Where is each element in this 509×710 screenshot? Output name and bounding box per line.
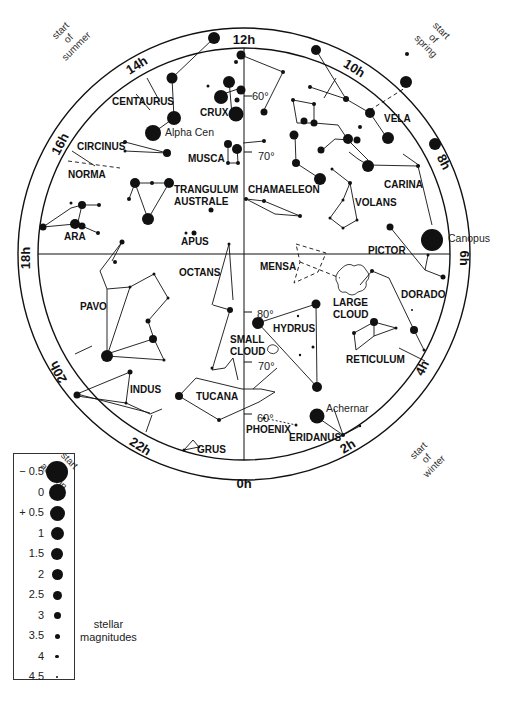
- star-alpha-cen: [145, 125, 161, 141]
- legend-magnitude-label: 3: [38, 609, 44, 621]
- constellation-label: AUSTRALE: [174, 196, 229, 207]
- legend-row: 0: [14, 483, 74, 503]
- star-name-label: Achernar: [326, 402, 369, 414]
- legend-star-dot-icon: [50, 506, 65, 521]
- declination-label: 70°: [258, 360, 275, 372]
- declination-label: 60°: [257, 412, 274, 424]
- constellation-label: LARGE: [333, 297, 368, 308]
- constellation-label: NORMA: [68, 169, 106, 180]
- constellation-label: PAVO: [80, 301, 107, 312]
- legend-row: 3: [14, 606, 74, 626]
- constellation-label: OCTANS: [179, 267, 221, 278]
- star-canopus: [421, 229, 443, 251]
- legend-magnitude-label: 4: [38, 650, 44, 662]
- season-label: startofsummer: [44, 13, 93, 62]
- constellation-label: CHAMAELEON: [248, 184, 320, 195]
- constellation-label: GRUS: [197, 444, 226, 455]
- legend-star-dot-icon: [51, 527, 64, 540]
- declination-label: 70°: [258, 150, 275, 162]
- constellation-label: SMALL: [230, 334, 264, 345]
- legend-row: 2: [14, 565, 74, 585]
- legend-row: 1.5: [14, 544, 74, 564]
- constellation-label: RETICULUM: [346, 354, 405, 365]
- constellation-label: VOLANS: [355, 197, 397, 208]
- legend-star-dot-icon: [46, 461, 68, 483]
- hour-label: 8h: [434, 152, 454, 172]
- legend-row: 2.5: [14, 585, 74, 605]
- legend-magnitude-label: 1.5: [29, 547, 44, 559]
- legend-star-dot-icon: [52, 569, 63, 580]
- constellation-label: TUCANA: [196, 391, 238, 402]
- constellation-label: DORADO: [401, 289, 446, 300]
- legend-magnitude-label: 2.5: [29, 588, 44, 600]
- declination-label: 80°: [257, 308, 274, 320]
- legend-row: − 0.5: [14, 462, 74, 482]
- legend-star-dot-icon: [49, 484, 66, 501]
- legend-star-dot-icon: [55, 655, 59, 659]
- constellation-label: CLOUD: [333, 309, 369, 320]
- hour-label: 10h: [341, 56, 368, 81]
- declination-label: 60°: [252, 90, 269, 102]
- constellation-label: VELA: [384, 113, 411, 124]
- legend-magnitude-label: 4.5: [29, 670, 44, 682]
- constellation-label: CARINA: [384, 179, 423, 190]
- hour-label: 20h: [46, 359, 70, 386]
- legend-magnitude-label: − 0.5: [19, 465, 44, 477]
- legend-caption: stellar magnitudes: [80, 618, 137, 644]
- star-name-label: Alpha Cen: [165, 126, 214, 138]
- legend-magnitude-label: + 0.5: [19, 506, 44, 518]
- legend-row: + 0.5: [14, 503, 74, 523]
- legend-magnitude-label: 3.5: [29, 629, 44, 641]
- legend-row: 1: [14, 524, 74, 544]
- legend-magnitude-label: 2: [38, 568, 44, 580]
- constellation-label: INDUS: [130, 384, 161, 395]
- legend-row: 4: [14, 647, 74, 667]
- magnitude-legend: − 0.50+ 0.511.522.533.544.5: [13, 453, 75, 680]
- hour-label: 0h: [236, 476, 251, 491]
- legend-star-dot-icon: [54, 612, 61, 619]
- constellation-label: MENSA: [260, 261, 296, 272]
- legend-row: 4.5: [14, 667, 74, 687]
- legend-row: 3.5: [14, 626, 74, 646]
- constellation-label: CLOUD: [230, 346, 266, 357]
- constellation-label: MUSCA: [188, 153, 225, 164]
- legend-caption-line2: magnitudes: [80, 631, 137, 644]
- hour-label: 12h: [233, 32, 255, 47]
- constellation-label: CRUX: [200, 107, 229, 118]
- hour-labels: 12h14h16h18h20h22h0h2h4h6h8h10h: [18, 32, 472, 491]
- constellation-label: TRANGULUM: [174, 184, 238, 195]
- constellation-label: HYDRUS: [273, 323, 316, 334]
- season-label: startofwinter: [404, 437, 447, 480]
- constellation-label: ARA: [64, 231, 86, 242]
- hour-label: 6h: [457, 250, 472, 265]
- legend-magnitude-label: 0: [38, 486, 44, 498]
- hour-label: 4h: [412, 358, 432, 378]
- constellation-label: CIRCINUS: [77, 141, 126, 152]
- legend-star-dot-icon: [55, 634, 60, 639]
- legend-caption-line1: stellar: [80, 618, 137, 631]
- legend-star-dot-icon: [51, 548, 63, 560]
- constellation-label: PICTOR: [368, 245, 406, 256]
- constellation-lines: [43, 38, 443, 450]
- season-label: startofspring: [412, 17, 455, 60]
- constellation-label: ERIDANUS: [289, 432, 342, 443]
- constellation-label: CENTAURUS: [112, 96, 174, 107]
- legend-star-dot-icon: [56, 676, 58, 678]
- constellation-label: PHOENIX: [246, 424, 291, 435]
- star-name-label: Canopus: [448, 232, 490, 244]
- legend-magnitude-label: 1: [38, 527, 44, 539]
- constellation-label: APUS: [181, 236, 209, 247]
- hour-label: 14h: [123, 53, 150, 78]
- star-achernar: [310, 409, 325, 424]
- hour-label: 18h: [18, 247, 33, 269]
- star-chart: 12h14h16h18h20h22h0h2h4h6h8h10h startofs…: [0, 0, 509, 710]
- legend-star-dot-icon: [53, 591, 62, 600]
